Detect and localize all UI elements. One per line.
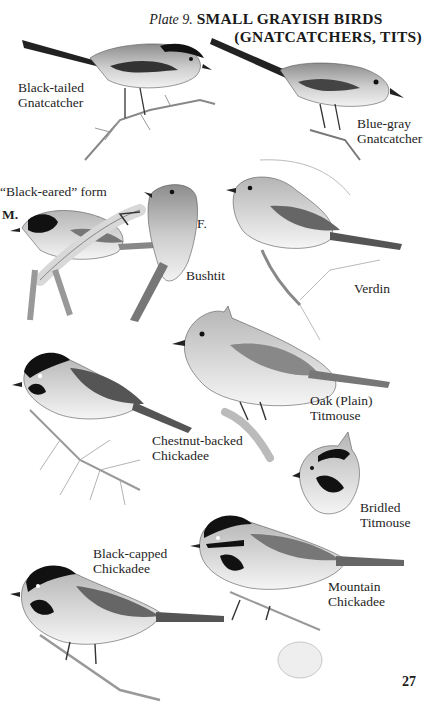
- label-line: Gnatcatcher: [357, 131, 422, 146]
- bushtit-illustration: [10, 185, 198, 322]
- label-bushtit: Bushtit: [186, 268, 225, 283]
- label-oak-titmouse: Oak (Plain) Titmouse: [310, 393, 373, 423]
- label-black-capped-chickadee: Black-capped Chickadee: [93, 546, 167, 576]
- label-male: M.: [2, 207, 18, 222]
- label-line: Black-capped: [93, 546, 167, 561]
- label-line: Chickadee: [93, 561, 167, 576]
- page-number: 27: [402, 674, 416, 690]
- plate-number: Plate 9.: [149, 12, 193, 27]
- label-line: Titmouse: [310, 408, 373, 423]
- label-bridled-titmouse: Bridled Titmouse: [360, 500, 411, 530]
- label-female: F.: [197, 216, 207, 231]
- label-black-eared-form: “Black-eared” form: [0, 184, 107, 199]
- label-verdin: Verdin: [354, 281, 390, 296]
- chestnut-backed-chickadee-illustration: [12, 353, 192, 505]
- plate-header: Plate 9. SMALL GRAYISH BIRDS (GNATCATCHE…: [149, 10, 422, 45]
- plate-title-line2: (GNATCATCHERS, TITS): [149, 28, 422, 45]
- verdin-illustration: [226, 160, 402, 340]
- black-capped-chickadee-illustration: [10, 566, 224, 700]
- label-line: Mountain: [328, 579, 385, 594]
- label-line: Chickadee: [152, 448, 243, 463]
- label-black-tailed-gnatcatcher: Black-tailed Gnatcatcher: [18, 80, 84, 110]
- label-line: Chickadee: [328, 594, 385, 609]
- label-line: Titmouse: [360, 515, 411, 530]
- field-guide-page: Plate 9. SMALL GRAYISH BIRDS (GNATCATCHE…: [0, 0, 438, 708]
- bridled-titmouse-illustration: [292, 432, 360, 514]
- label-blue-gray-gnatcatcher: Blue-gray Gnatcatcher: [357, 116, 422, 146]
- label-line: Blue-gray: [357, 116, 422, 131]
- label-line: Gnatcatcher: [18, 95, 84, 110]
- label-line: Bridled: [360, 500, 411, 515]
- plate-title-line1: SMALL GRAYISH BIRDS: [197, 10, 383, 27]
- label-chestnut-backed-chickadee: Chestnut-backed Chickadee: [152, 433, 243, 463]
- label-line: Chestnut-backed: [152, 433, 243, 448]
- label-line: Oak (Plain): [310, 393, 373, 408]
- label-mountain-chickadee: Mountain Chickadee: [328, 579, 385, 609]
- label-line: Black-tailed: [18, 80, 84, 95]
